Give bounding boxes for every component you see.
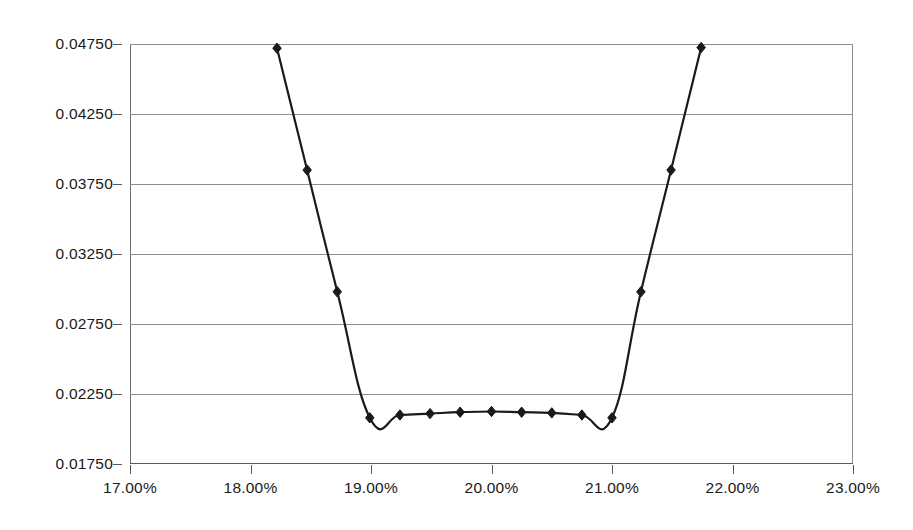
x-axis-tick-label: 23.00% <box>798 479 908 497</box>
data-point-marker <box>426 408 435 418</box>
x-axis-tick-label: 17.00% <box>75 479 185 497</box>
y-axis-tick-mark <box>113 464 122 465</box>
y-axis-tick-label: 0.04250 <box>3 105 113 123</box>
x-axis-tick-label: 21.00% <box>557 479 667 497</box>
data-point-marker <box>697 42 706 52</box>
x-axis-tick-label: 22.00% <box>678 479 788 497</box>
y-axis-tick-mark <box>113 184 122 185</box>
data-point-marker <box>547 408 556 418</box>
y-axis-tick-mark <box>113 324 122 325</box>
data-point-marker <box>517 407 526 417</box>
y-axis-tick-label: 0.02250 <box>3 385 113 403</box>
x-axis: 17.00%18.00%19.00%20.00%21.00%22.00%23.0… <box>130 465 853 505</box>
data-point-marker <box>273 43 282 53</box>
x-axis-tick-mark <box>612 465 613 474</box>
data-point-marker <box>667 165 676 175</box>
x-axis-tick-label: 18.00% <box>196 479 306 497</box>
x-axis-tick-mark <box>130 465 131 474</box>
y-axis-tick-label: 0.03750 <box>3 175 113 193</box>
y-axis-tick-label: 0.02750 <box>3 315 113 333</box>
x-axis-tick-mark <box>853 465 854 474</box>
data-point-marker <box>303 165 312 175</box>
data-series-line <box>130 44 853 464</box>
plot-area <box>130 44 853 464</box>
data-point-marker <box>396 410 405 420</box>
y-axis-tick-label: 0.04750 <box>3 35 113 53</box>
series-line-path <box>277 48 701 430</box>
x-axis-tick-label: 20.00% <box>437 479 547 497</box>
x-axis-tick-label: 19.00% <box>316 479 426 497</box>
data-point-marker <box>333 287 342 297</box>
data-point-marker <box>487 406 496 416</box>
x-axis-tick-mark <box>251 465 252 474</box>
x-axis-tick-mark <box>371 465 372 474</box>
y-axis-tick-label: 0.01750 <box>3 455 113 473</box>
y-axis-tick-mark <box>113 394 122 395</box>
chart-container: 17.00%18.00%19.00%20.00%21.00%22.00%23.0… <box>0 0 913 530</box>
data-point-marker <box>578 410 587 420</box>
y-axis-tick-label: 0.03250 <box>3 245 113 263</box>
data-point-marker <box>456 407 465 417</box>
x-axis-tick-mark <box>733 465 734 474</box>
y-axis-tick-mark <box>113 114 122 115</box>
x-axis-tick-mark <box>492 465 493 474</box>
y-axis-tick-mark <box>113 44 122 45</box>
data-point-marker <box>637 287 646 297</box>
y-axis-tick-mark <box>113 254 122 255</box>
